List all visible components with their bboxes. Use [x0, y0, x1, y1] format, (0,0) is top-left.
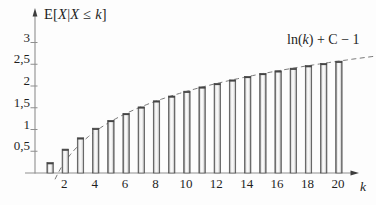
bar-body — [336, 61, 342, 173]
bar-top-cap — [199, 87, 205, 89]
bar-top-cap — [260, 73, 266, 75]
bar-k-17 — [290, 68, 296, 173]
asymptote-label-text: ) + C − 1 — [309, 32, 360, 47]
bar-top-cap — [93, 128, 99, 130]
title-text: k — [95, 6, 102, 22]
x-axis-arrow-icon — [351, 171, 360, 176]
bar-k-18 — [305, 66, 311, 173]
x-axis-label: k — [360, 179, 366, 195]
bar-top-cap — [336, 61, 342, 63]
bar-top-cap — [214, 83, 220, 85]
bar-body — [305, 66, 311, 173]
bar-top-cap — [305, 66, 311, 68]
y-axis-arrow-icon — [33, 8, 38, 17]
bar-top-cap — [123, 113, 129, 115]
bar-top-cap — [275, 71, 281, 73]
bar-top-cap — [229, 80, 235, 82]
bar-body — [169, 96, 175, 173]
x-tick-label: 18 — [296, 177, 320, 191]
bar-body — [245, 76, 251, 173]
bar-body — [138, 107, 144, 173]
bar-body — [229, 80, 235, 173]
y-tick-label: 1 — [4, 118, 30, 132]
bar-k-16 — [275, 71, 281, 173]
bar-k-3 — [77, 138, 83, 173]
bar-top-cap — [77, 138, 83, 140]
bar-k-9 — [169, 96, 175, 173]
bar-top-cap — [153, 101, 159, 103]
y-tick-label: 2 — [4, 74, 30, 88]
bar-body — [108, 120, 114, 173]
bar-k-2 — [62, 149, 68, 173]
bar-k-1 — [47, 163, 53, 173]
x-tick-label: 14 — [235, 177, 259, 191]
x-tick-label: 2 — [52, 177, 76, 191]
x-tick-label: 6 — [113, 177, 137, 191]
x-tick-label: 10 — [174, 177, 198, 191]
bar-body — [275, 71, 281, 173]
bar-k-14 — [245, 76, 251, 173]
bar-k-5 — [108, 120, 114, 173]
title-text: X — [58, 6, 67, 22]
chart-figure: E[X|X ≤ k] ln(k) + C − 1 k 0,511,522,532… — [0, 0, 376, 205]
bars-layer — [47, 61, 342, 173]
bar-k-11 — [199, 87, 205, 173]
bar-k-20 — [336, 61, 342, 173]
bar-body — [184, 91, 190, 173]
bar-k-7 — [138, 107, 144, 173]
bar-body — [260, 73, 266, 173]
bar-top-cap — [290, 68, 296, 70]
bar-top-cap — [169, 96, 175, 98]
bar-body — [77, 138, 83, 173]
title-text: E[ — [44, 6, 58, 22]
bar-body — [93, 128, 99, 173]
bar-body — [153, 101, 159, 173]
title-text: ] — [102, 6, 107, 22]
bar-top-cap — [321, 63, 327, 65]
plot-canvas — [0, 0, 376, 205]
y-tick-label: 2,5 — [4, 52, 30, 66]
bar-k-19 — [321, 63, 327, 173]
x-tick-label: 16 — [265, 177, 289, 191]
bar-k-4 — [93, 128, 99, 173]
title-text: ≤ — [79, 6, 95, 22]
x-tick-label: 12 — [204, 177, 228, 191]
asymptote-label: ln(k) + C − 1 — [287, 32, 360, 48]
bar-top-cap — [138, 107, 144, 109]
bar-k-15 — [260, 73, 266, 173]
title-text: X — [70, 6, 79, 22]
bar-body — [290, 68, 296, 173]
bar-body — [214, 83, 220, 173]
x-tick-label: 20 — [326, 177, 350, 191]
bar-k-12 — [214, 83, 220, 173]
y-tick-label: 0,5 — [4, 139, 30, 153]
bar-top-cap — [62, 149, 68, 151]
x-tick-label: 8 — [144, 177, 168, 191]
bar-k-6 — [123, 113, 129, 173]
bar-top-cap — [108, 120, 114, 122]
x-tick-label: 4 — [83, 177, 107, 191]
bar-top-cap — [245, 76, 251, 78]
bar-top-cap — [47, 163, 53, 165]
bar-body — [199, 87, 205, 173]
y-tick-label: 3 — [4, 31, 30, 45]
bar-body — [321, 63, 327, 173]
bar-k-13 — [229, 80, 235, 173]
bar-body — [62, 149, 68, 173]
bar-k-10 — [184, 91, 190, 173]
chart-title: E[X|X ≤ k] — [44, 6, 107, 23]
bar-body — [123, 113, 129, 173]
asymptote-label-text: ln( — [287, 32, 303, 47]
bar-top-cap — [184, 91, 190, 93]
y-tick-label: 1,5 — [4, 96, 30, 110]
bar-k-8 — [153, 101, 159, 173]
